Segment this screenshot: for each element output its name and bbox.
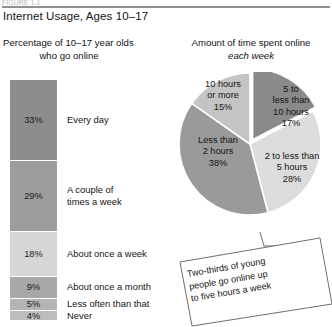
title-rule <box>2 6 330 8</box>
bar-segment-value: 33% <box>10 115 57 125</box>
right-heading-line1: Amount of time spent online <box>192 37 311 48</box>
bar-segment: 9%About once a month <box>10 277 57 299</box>
bar-segment-value: 29% <box>10 191 57 201</box>
pie-label-5-to-10-hours: 5 to less than 10 hours 17% <box>260 84 322 130</box>
left-heading-line2: who go online <box>3 50 161 63</box>
bar-segment-value: 9% <box>10 282 57 292</box>
bar-segment-value: 5% <box>10 299 57 309</box>
right-chart-heading: Amount of time spent online each week <box>172 37 330 62</box>
right-heading-line2: each week <box>172 50 330 63</box>
bar-segment: 5%Less often than that <box>10 299 57 311</box>
callout-annotation: Two-thirds of young people go online up … <box>160 232 332 327</box>
figure-container: FIGURE 1-1 Internet Usage, Ages 10–17 Pe… <box>0 0 332 327</box>
pie-chart: Less than 2 hours 38% 2 to less than 5 h… <box>168 72 332 217</box>
bar-segment: 4%Never <box>10 311 57 321</box>
bar-segment-value: 18% <box>10 249 57 259</box>
figure-title: Internet Usage, Ages 10–17 <box>3 10 148 22</box>
bar-segment: 18%About once a week <box>10 232 57 276</box>
pie-label-10-hours-or-more: 10 hours or more 15% <box>194 79 252 113</box>
pie-label-less-than-2-hours: Less than 2 hours 38% <box>174 135 262 169</box>
bar-segment: 33%Every day <box>10 80 57 161</box>
left-chart-heading: Percentage of 10–17 year olds who go onl… <box>3 37 161 62</box>
pie-label-2-to-5-hours: 2 to less than 5 hours 28% <box>252 151 332 185</box>
cropped-figure-number: FIGURE 1-1 <box>2 0 222 5</box>
bar-segment-value: 4% <box>10 311 57 321</box>
left-heading-line1: Percentage of 10–17 year olds <box>3 37 161 50</box>
bar-segment: 29%A couple of times a week <box>10 161 57 232</box>
stacked-bar-chart: 33%Every day29%A couple of times a week1… <box>10 80 57 321</box>
